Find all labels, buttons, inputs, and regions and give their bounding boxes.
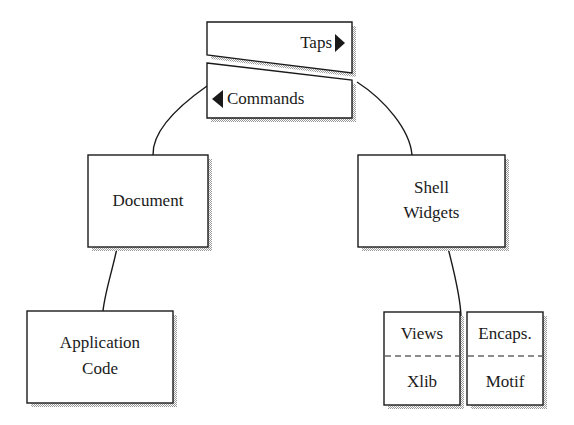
motif-label: Motif — [467, 372, 543, 392]
edge-commands-document — [153, 86, 207, 155]
edge-document-appcode — [103, 248, 117, 311]
views-label: Views — [384, 324, 460, 344]
commands-label: Commands — [227, 89, 337, 109]
appcode-box[interactable] — [27, 311, 173, 403]
shell-label-line1: Shell — [358, 178, 505, 198]
taps-label: Taps — [280, 33, 332, 53]
appcode-label-line2: Code — [27, 359, 173, 379]
xlib-label: Xlib — [384, 372, 460, 392]
shell-label-line2: Widgets — [358, 203, 505, 223]
encaps-label: Encaps. — [467, 324, 543, 344]
shell-box[interactable] — [358, 155, 505, 247]
appcode-label-line1: Application — [27, 333, 173, 353]
document-label: Document — [88, 191, 208, 211]
edge-commands-shell — [357, 82, 412, 155]
edge-shell-views — [448, 248, 461, 318]
